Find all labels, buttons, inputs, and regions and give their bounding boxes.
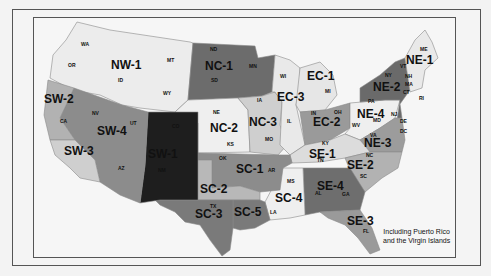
label-EC-2: EC-2	[313, 115, 341, 129]
state-MN: MN	[249, 63, 257, 69]
state-WY: WY	[163, 90, 172, 96]
label-NE-3: NE-3	[364, 136, 392, 150]
state-ID: ID	[118, 77, 123, 83]
state-UT: UT	[130, 120, 137, 126]
state-IL: IL	[287, 118, 291, 124]
label-NE-2: NE-2	[373, 80, 401, 94]
label-NC-1: NC-1	[205, 59, 233, 73]
label-SE-2: SE-2	[347, 158, 374, 172]
state-NE: NE	[213, 109, 221, 115]
state-ND: ND	[210, 46, 218, 52]
state-MI: MI	[325, 88, 331, 94]
state-AZ: AZ	[118, 165, 125, 171]
state-FL: FL	[363, 228, 369, 234]
state-OH: OH	[334, 109, 342, 115]
state-AR: AR	[268, 167, 276, 173]
state-RI: RI	[419, 95, 425, 101]
label-SW-2: SW-2	[44, 92, 74, 106]
state-VT: VT	[400, 63, 406, 69]
state-WA: WA	[81, 41, 89, 47]
state-VA: VA	[370, 132, 377, 138]
state-TN: TN	[317, 157, 324, 163]
state-ME: ME	[420, 46, 428, 52]
state-KS: KS	[227, 141, 235, 147]
label-SC-2: SC-2	[200, 182, 228, 196]
territories-note: Including Puerto Rico and the Virgin Isl…	[383, 227, 450, 245]
state-SC: SC	[360, 173, 367, 179]
label-SC-4: SC-4	[275, 191, 303, 205]
state-NC: NC	[366, 152, 374, 158]
label-SC-1: SC-1	[236, 162, 264, 176]
label-SC-3: SC-3	[195, 207, 223, 221]
label-EC-3: EC-3	[277, 90, 305, 104]
state-CA: CA	[60, 118, 68, 124]
label-EC-1: EC-1	[307, 69, 335, 83]
state-OK: OK	[219, 155, 227, 161]
state-MS: MS	[287, 178, 295, 184]
state-NM: NM	[158, 167, 166, 173]
label-SW-3: SW-3	[64, 144, 94, 158]
state-WV: WV	[352, 122, 361, 128]
state-MO: MO	[265, 136, 273, 142]
state-IA: IA	[257, 97, 262, 103]
state-KY: KY	[322, 140, 330, 146]
state-MT: MT	[167, 57, 174, 63]
label-SE-3: SE-3	[347, 214, 374, 228]
state-WI: WI	[280, 73, 287, 79]
label-NC-3: NC-3	[249, 115, 277, 129]
state-GA: GA	[342, 191, 350, 197]
state-CO: CO	[172, 123, 180, 129]
label-SW-1: SW-1	[148, 147, 178, 161]
note-line-2: and the Virgin Islands	[383, 236, 450, 245]
state-NH: NH	[405, 73, 413, 79]
label-NE-1: NE-1	[406, 53, 434, 67]
state-LA: LA	[270, 209, 277, 215]
label-SC-5: SC-5	[234, 205, 262, 219]
state-NY: NY	[385, 72, 393, 78]
state-MA: MA	[405, 81, 413, 87]
label-SW-4: SW-4	[97, 124, 127, 138]
state-PA: PA	[368, 98, 375, 104]
state-OR: OR	[68, 62, 76, 68]
state-DE: DE	[400, 118, 408, 124]
note-line-1: Including Puerto Rico	[383, 227, 450, 236]
state-MD: MD	[373, 117, 381, 123]
state-NV: NV	[92, 110, 100, 116]
label-NC-2: NC-2	[210, 121, 238, 135]
state-NJ: NJ	[391, 111, 398, 117]
label-NW-1: NW-1	[111, 58, 142, 72]
state-IN: IN	[311, 110, 316, 116]
state-SD: SD	[211, 77, 218, 83]
state-CT: CT	[403, 89, 410, 95]
state-DC: DC	[400, 128, 408, 134]
state-TX: TX	[210, 203, 217, 209]
state-AL: AL	[315, 190, 322, 196]
